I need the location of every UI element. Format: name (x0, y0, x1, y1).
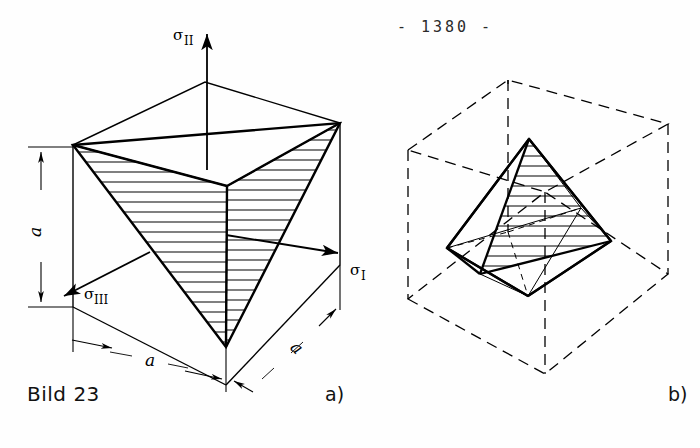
axis-sigma-1-symbol: σ (350, 261, 360, 279)
axis-sigma-2-subscript: II (184, 34, 194, 48)
dimension-width-right-a-label: a (287, 337, 308, 359)
subfigure-label-a: a) (325, 383, 344, 405)
figure-a-drawing: σ II σ I σ III a (0, 0, 700, 448)
figure-a-hatch-right (200, 130, 360, 340)
figure-b-cube (408, 80, 668, 374)
figure-b-octahedron (447, 139, 611, 296)
dimension-width-left-a-label: a (145, 350, 155, 370)
figure-b-inner-edges (447, 139, 611, 296)
page-canvas: - 1380 - (0, 0, 700, 448)
figure-b-hatch (430, 146, 640, 266)
dimension-height-a-label: a (25, 227, 45, 237)
figure-caption: Bild 23 (27, 382, 100, 406)
dimension-width-right-a (234, 265, 340, 392)
subfigure-label-b: b) (668, 383, 687, 405)
axis-sigma-3 (64, 252, 150, 296)
axis-sigma-3-subscript: III (94, 293, 108, 307)
axis-sigma-3-symbol: σ (84, 285, 94, 303)
axis-sigma-2-symbol: σ (173, 26, 183, 44)
axis-sigma-1-subscript: I (361, 269, 366, 283)
